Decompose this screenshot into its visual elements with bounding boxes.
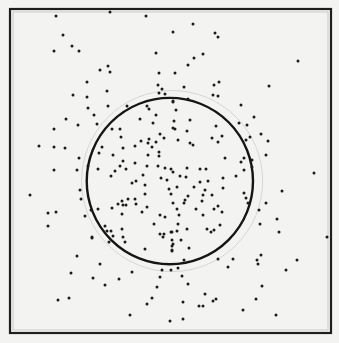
dot [278, 231, 281, 234]
dot [134, 198, 137, 201]
dot [187, 98, 190, 101]
dot [159, 233, 162, 236]
dots-group [29, 11, 329, 323]
dot [124, 241, 127, 244]
dot [168, 188, 171, 191]
dot [192, 23, 195, 26]
dot [215, 298, 218, 301]
dot [80, 198, 83, 201]
dot [111, 128, 114, 131]
inner-frame-line [13, 12, 328, 330]
dot [171, 239, 174, 242]
dot [213, 229, 216, 232]
dot [211, 137, 214, 140]
dot [221, 211, 224, 214]
dot [78, 157, 81, 160]
dot [146, 165, 149, 168]
dot [151, 297, 154, 300]
dot [199, 181, 202, 184]
dot [175, 109, 178, 112]
dot [255, 298, 258, 301]
dot [173, 120, 176, 123]
dot [202, 194, 205, 197]
boundary-circle [87, 98, 253, 264]
dot [182, 301, 185, 304]
dot [227, 266, 230, 269]
dot [92, 277, 95, 280]
dot [76, 255, 79, 258]
dot [172, 243, 175, 246]
dot [125, 168, 128, 171]
dot [172, 31, 175, 34]
dot [131, 271, 134, 274]
dot [172, 101, 175, 104]
dot [184, 199, 187, 202]
dot [169, 320, 172, 323]
dot [97, 168, 100, 171]
dot [53, 50, 56, 53]
dot [47, 225, 50, 228]
dot [121, 213, 124, 216]
dot [142, 174, 145, 177]
dot [84, 215, 87, 218]
dot [251, 159, 254, 162]
dot [183, 86, 186, 89]
dot [158, 155, 161, 158]
dot [256, 259, 259, 262]
dot [141, 211, 144, 214]
dot [155, 141, 158, 144]
dot [57, 299, 60, 302]
dot [99, 263, 102, 266]
dot [148, 108, 151, 111]
dot-field-diagram [0, 0, 339, 343]
dot [158, 72, 161, 75]
dot [117, 203, 120, 206]
dot [68, 297, 71, 300]
dot [247, 202, 250, 205]
dot [151, 146, 154, 149]
dot [243, 192, 246, 195]
diagram-canvas [0, 0, 339, 343]
dot [202, 53, 205, 56]
dot [114, 170, 117, 173]
dot [265, 154, 268, 157]
dot [204, 293, 207, 296]
dot [164, 167, 167, 170]
dot [109, 11, 112, 14]
dot [187, 64, 190, 67]
dot [121, 228, 124, 231]
dot [166, 179, 169, 182]
dot [159, 133, 162, 136]
dot [235, 175, 238, 178]
dot [217, 95, 220, 98]
dot [163, 137, 166, 140]
dot [268, 85, 271, 88]
dot [97, 208, 100, 211]
dot [55, 211, 58, 214]
dot [195, 208, 198, 211]
dot [110, 175, 113, 178]
dot [177, 223, 180, 226]
dot [189, 142, 192, 145]
dot [146, 105, 149, 108]
dot [157, 165, 160, 168]
dot [281, 190, 284, 193]
dot [86, 96, 89, 99]
dot [181, 275, 184, 278]
dot [53, 128, 56, 131]
dot [176, 208, 179, 211]
dot [106, 230, 109, 233]
dot [207, 180, 210, 183]
dot [162, 236, 165, 239]
dot [144, 184, 147, 187]
dot [122, 160, 125, 163]
dot [86, 81, 89, 84]
dot [217, 258, 220, 261]
dot [187, 195, 190, 198]
dot [202, 214, 205, 217]
dot [170, 269, 173, 272]
dot [53, 146, 56, 149]
dot [276, 218, 279, 221]
dot [53, 169, 56, 172]
dot [158, 151, 161, 154]
